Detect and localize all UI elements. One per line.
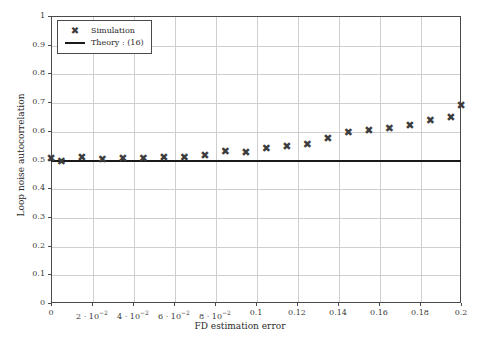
x-tick-label: 4 · 10−2 xyxy=(117,309,149,321)
data-point-marker: ✖ xyxy=(282,142,291,151)
x-tick-mark xyxy=(256,303,257,306)
gridline-horizontal xyxy=(52,103,460,104)
data-point-marker: ✖ xyxy=(139,154,148,163)
data-point-marker: ✖ xyxy=(200,151,209,160)
x-tick-mark xyxy=(297,303,298,306)
data-point-marker: ✖ xyxy=(77,153,86,162)
x-tick-mark xyxy=(174,303,175,306)
data-point-marker: ✖ xyxy=(221,147,230,156)
x-tick-label: 0.12 xyxy=(288,309,306,317)
theory-line-icon xyxy=(63,42,87,44)
x-tick-mark xyxy=(92,303,93,306)
y-tick-mark xyxy=(48,303,51,304)
data-point-marker: ✖ xyxy=(262,144,271,153)
gridline-horizontal xyxy=(52,247,460,248)
data-point-marker: ✖ xyxy=(180,153,189,162)
x-tick-mark xyxy=(133,303,134,306)
chart-legend: ✖ Simulation Theory : (16) xyxy=(57,20,152,54)
x-tick-mark xyxy=(420,303,421,306)
data-point-marker: ✖ xyxy=(57,157,66,166)
data-point-marker: ✖ xyxy=(159,153,168,162)
x-tick-label: 0.16 xyxy=(370,309,388,317)
x-tick-mark xyxy=(338,303,339,306)
x-axis-label: FD estimation error xyxy=(0,321,480,331)
x-tick-mark xyxy=(461,303,462,306)
x-tick-label: 0 xyxy=(48,309,53,317)
x-tick-mark xyxy=(379,303,380,306)
chart-figure: 00.10.20.30.40.50.60.70.80.9102 · 10−24 … xyxy=(0,0,480,343)
x-tick-label: 2 · 10−2 xyxy=(76,309,108,321)
x-tick-label: 0.18 xyxy=(411,309,429,317)
data-point-marker: ✖ xyxy=(47,154,56,163)
theory-line-series xyxy=(51,160,461,162)
gridline-horizontal xyxy=(52,275,460,276)
gridline-horizontal xyxy=(52,218,460,219)
data-point-marker: ✖ xyxy=(344,128,353,137)
x-tick-label: 0.2 xyxy=(455,309,468,317)
data-point-marker: ✖ xyxy=(446,113,455,122)
y-axis-label: Loop noise autocorrelation xyxy=(16,35,26,275)
x-tick-label: 6 · 10−2 xyxy=(158,309,190,321)
gridline-horizontal xyxy=(52,189,460,190)
x-tick-mark xyxy=(215,303,216,306)
data-point-marker: ✖ xyxy=(241,148,250,157)
legend-entry-theory: Theory : (16) xyxy=(63,37,144,49)
y-tick-label: 0 xyxy=(1,299,45,307)
data-point-marker: ✖ xyxy=(457,101,466,110)
data-point-marker: ✖ xyxy=(385,124,394,133)
simulation-marker-icon: ✖ xyxy=(63,25,87,37)
legend-label-theory: Theory : (16) xyxy=(87,37,144,49)
data-point-marker: ✖ xyxy=(426,116,435,125)
data-point-marker: ✖ xyxy=(323,134,332,143)
data-point-marker: ✖ xyxy=(364,126,373,135)
x-tick-mark xyxy=(51,303,52,306)
legend-entry-simulation: ✖ Simulation xyxy=(63,25,144,37)
data-point-marker: ✖ xyxy=(118,154,127,163)
legend-label-simulation: Simulation xyxy=(87,25,135,37)
data-point-marker: ✖ xyxy=(98,155,107,164)
x-tick-label: 8 · 10−2 xyxy=(199,309,231,321)
data-point-marker: ✖ xyxy=(405,121,414,130)
gridline-horizontal xyxy=(52,132,460,133)
y-tick-label: 1 xyxy=(1,12,45,20)
data-point-marker: ✖ xyxy=(303,140,312,149)
gridline-horizontal xyxy=(52,74,460,75)
x-tick-label: 0.1 xyxy=(250,309,263,317)
x-tick-label: 0.14 xyxy=(329,309,347,317)
